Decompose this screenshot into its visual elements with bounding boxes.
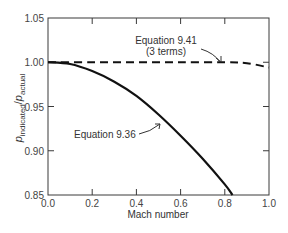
y-tick-label: 1.05: [25, 13, 45, 24]
y-tick-label: 0.95: [25, 102, 45, 113]
x-tick-label: 0.2: [85, 198, 99, 209]
annotation-arrow-9-36: [139, 124, 160, 134]
y-tick-label: 0.85: [25, 190, 45, 201]
annotation-equation-9-41: Equation 9.41: [135, 35, 197, 46]
y-tick-label: 1.00: [25, 57, 45, 68]
annotation-arrow-9-41: [201, 49, 220, 62]
x-axis-label: Mach number: [127, 209, 189, 220]
x-tick-label: 0.6: [174, 198, 188, 209]
chart: 0.00.20.40.60.81.00.850.900.951.001.05 E…: [0, 0, 288, 233]
x-tick-label: 0.8: [218, 198, 232, 209]
annotation-equation-9-36: Equation 9.36: [74, 129, 136, 140]
x-tick-label: 0.4: [129, 198, 143, 209]
arrowhead-9-41: [216, 56, 221, 62]
y-tick-label: 0.90: [25, 146, 45, 157]
x-tick-label: 1.0: [262, 198, 276, 209]
annotation-equation-9-41-terms: (3 terms): [146, 46, 186, 57]
y-axis-label: pindicated/pactual: [12, 73, 27, 143]
